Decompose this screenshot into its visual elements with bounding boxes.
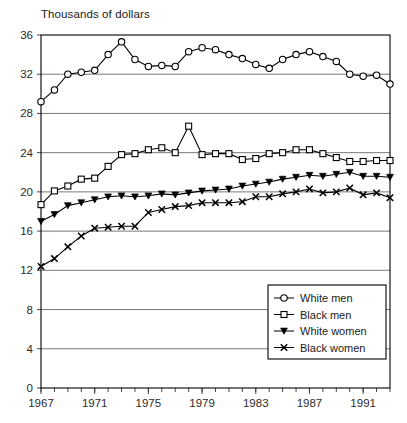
data-point-marker xyxy=(373,72,379,78)
data-point-marker xyxy=(51,212,58,218)
x-axis-tick-label: 1987 xyxy=(297,397,323,409)
y-axis-tick-label: 28 xyxy=(20,107,33,119)
data-point-marker xyxy=(266,65,272,71)
data-point-marker xyxy=(199,152,205,158)
data-point-marker xyxy=(38,98,44,104)
data-point-marker xyxy=(78,233,84,239)
legend-label: Black men xyxy=(300,309,351,321)
data-point-marker xyxy=(65,71,71,77)
data-point-marker xyxy=(360,73,366,79)
data-point-marker xyxy=(65,183,71,189)
legend[interactable]: White menBlack menWhite womenBlack women xyxy=(268,285,386,359)
data-point-marker xyxy=(38,218,45,224)
x-axis-tick-label: 1983 xyxy=(243,397,269,409)
data-point-marker xyxy=(347,158,353,164)
y-axis-tick-label: 12 xyxy=(20,264,33,276)
data-point-marker xyxy=(374,158,380,164)
x-axis-tick-label: 1991 xyxy=(350,397,376,409)
data-point-marker xyxy=(266,151,272,157)
data-point-marker xyxy=(333,155,339,161)
data-point-marker xyxy=(145,147,151,153)
data-point-marker xyxy=(172,150,178,156)
data-point-marker xyxy=(226,151,232,157)
data-point-marker xyxy=(293,147,299,153)
x-axis-tick-label: 1967 xyxy=(28,397,54,409)
x-axis-ticks-group: 1967197119751979198319871991 xyxy=(28,388,390,409)
series-black-women xyxy=(38,185,393,270)
data-point-marker xyxy=(281,295,287,301)
data-point-marker xyxy=(253,61,259,67)
data-point-marker xyxy=(145,63,151,69)
data-point-marker xyxy=(172,63,178,69)
data-point-marker xyxy=(281,312,287,318)
series-black-men xyxy=(38,123,393,207)
data-point-marker xyxy=(91,67,97,73)
data-point-marker xyxy=(159,145,165,151)
chart-svg: 04812162024283236 1967197119751979198319… xyxy=(0,0,407,423)
x-axis-tick-label: 1971 xyxy=(82,397,108,409)
series-white-women xyxy=(38,169,394,224)
data-point-marker xyxy=(199,45,205,51)
y-axis-tick-label: 8 xyxy=(27,304,33,316)
data-point-marker xyxy=(186,123,192,129)
data-point-marker xyxy=(159,62,165,68)
data-point-marker xyxy=(320,53,326,59)
data-point-marker xyxy=(132,56,138,62)
x-axis-tick-label: 1979 xyxy=(189,397,215,409)
data-point-marker xyxy=(253,156,259,162)
data-point-marker xyxy=(213,151,219,157)
data-point-marker xyxy=(119,152,125,158)
data-point-marker xyxy=(387,81,393,87)
data-point-marker xyxy=(280,150,286,156)
data-point-marker xyxy=(347,71,353,77)
y-axis-tick-label: 36 xyxy=(20,29,33,41)
x-axis-tick-label: 1975 xyxy=(136,397,162,409)
chart-container: Thousands of dollars 04812162024283236 1… xyxy=(0,0,407,423)
data-point-marker xyxy=(239,55,245,61)
y-axis-tick-label: 4 xyxy=(27,343,34,355)
data-point-marker xyxy=(92,175,98,181)
data-point-marker xyxy=(239,157,245,163)
data-point-marker xyxy=(320,151,326,157)
y-axis-tick-label: 32 xyxy=(20,68,33,80)
data-point-marker xyxy=(118,39,124,45)
y-axis-ticks-group: 04812162024283236 xyxy=(20,29,41,394)
legend-label: White women xyxy=(300,325,367,337)
data-point-marker xyxy=(293,51,299,57)
data-point-marker xyxy=(105,163,111,169)
legend-label: Black women xyxy=(300,342,365,354)
data-point-marker xyxy=(306,48,312,54)
y-axis-tick-label: 20 xyxy=(20,186,33,198)
data-series-group xyxy=(38,39,394,270)
data-point-marker xyxy=(360,158,366,164)
data-point-marker xyxy=(65,244,71,250)
data-point-marker xyxy=(78,176,84,182)
data-point-marker xyxy=(226,51,232,57)
data-point-marker xyxy=(78,69,84,75)
data-point-marker xyxy=(185,48,191,54)
series-white-men xyxy=(38,39,393,105)
legend-label: White men xyxy=(300,292,353,304)
data-point-marker xyxy=(279,56,285,62)
data-point-marker xyxy=(132,151,138,157)
y-axis-tick-label: 16 xyxy=(20,225,33,237)
data-point-marker xyxy=(387,158,393,164)
data-point-marker xyxy=(64,203,71,209)
data-point-marker xyxy=(51,255,57,261)
data-point-marker xyxy=(51,87,57,93)
data-point-marker xyxy=(212,47,218,53)
data-point-marker xyxy=(347,185,353,191)
data-point-marker xyxy=(51,188,57,194)
y-axis-tick-label: 24 xyxy=(20,147,33,159)
data-point-marker xyxy=(306,147,312,153)
data-point-marker xyxy=(105,51,111,57)
y-axis-tick-label: 0 xyxy=(27,382,33,394)
data-point-marker xyxy=(333,58,339,64)
data-point-marker xyxy=(38,202,44,208)
